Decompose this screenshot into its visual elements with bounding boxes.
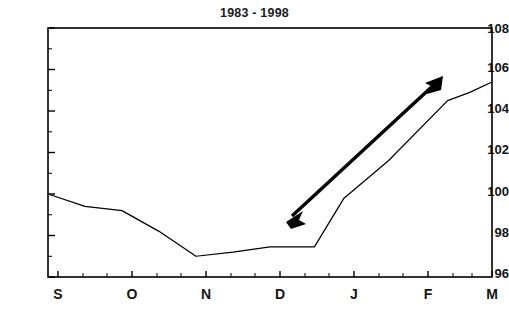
plot-area-svg <box>0 0 509 316</box>
x-axis-major-ticks <box>58 271 492 277</box>
plot-frame <box>48 28 492 277</box>
trend-arrow-annotation <box>286 76 443 229</box>
line-chart: 1983 - 1998 108 106 104 102 100 98 96 S … <box>0 0 509 316</box>
trend-arrow-shaft <box>292 82 437 216</box>
y-axis-major-ticks <box>48 28 55 277</box>
data-series-line <box>48 82 492 256</box>
